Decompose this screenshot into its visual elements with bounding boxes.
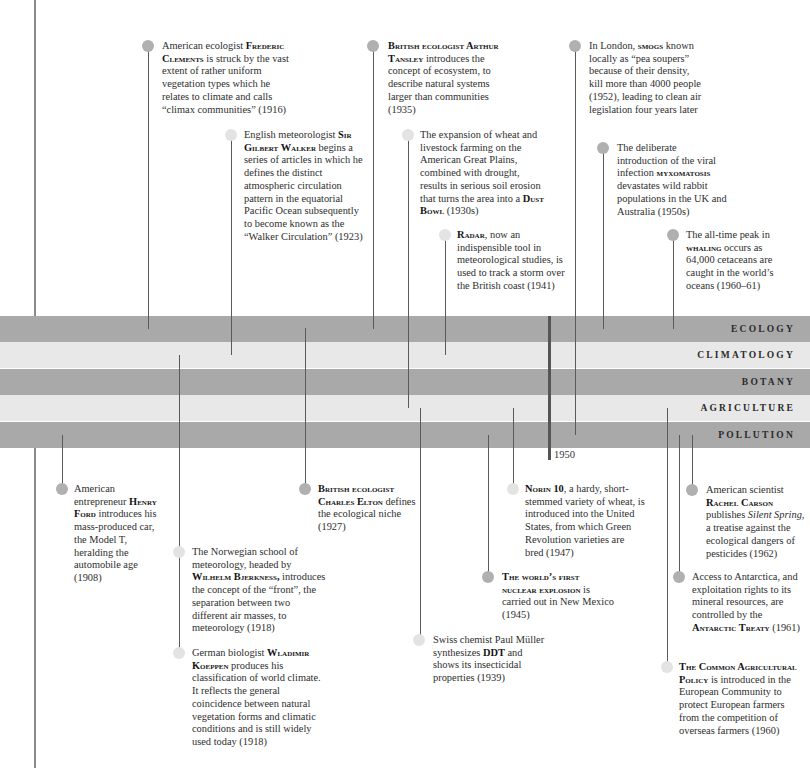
event-dot — [597, 142, 609, 154]
event-common-agricultural-policy: The Common Agricultural Policy is introd… — [679, 661, 797, 737]
event-dot — [661, 661, 673, 673]
year-label-1950: 1950 — [554, 449, 575, 460]
event-arthur-tansley: British ecologist Arthur Tansley introdu… — [388, 40, 512, 116]
connector-line — [575, 46, 576, 435]
band-climatology: CLIMATOLOGY — [0, 342, 810, 368]
event-dot — [173, 647, 185, 659]
connector-line — [305, 328, 306, 489]
band-botany: BOTANY — [0, 369, 810, 395]
event-dot — [56, 483, 68, 495]
event-dot — [507, 483, 519, 495]
timeline-page: ECOLOGY CLIMATOLOGY BOTANY AGRICULTURE P… — [0, 0, 810, 768]
event-dot — [299, 483, 311, 495]
event-dot — [402, 129, 414, 141]
band-label-ecology: ECOLOGY — [731, 316, 795, 342]
event-norin-10: Norin 10, a hardy, short-stemmed variety… — [525, 483, 645, 559]
connector-line — [603, 148, 604, 329]
event-wladimir-koeppen: German biologist Wladimir Koeppen produc… — [192, 647, 326, 749]
year-marker-1950 — [548, 316, 551, 460]
event-myxomatosis: The deliberate introduction of the viral… — [617, 142, 727, 218]
event-dot — [413, 634, 425, 646]
event-dot — [173, 546, 185, 558]
connector-line — [420, 408, 421, 640]
band-label-agriculture: AGRICULTURE — [700, 395, 795, 421]
left-axis-line-upper — [34, 0, 36, 316]
event-henry-ford: American entrepreneur Henry Ford introdu… — [74, 483, 160, 585]
connector-line — [679, 435, 680, 577]
event-dot — [569, 40, 581, 52]
event-antarctic-treaty: Access to Antarctica, and exploitation r… — [692, 571, 806, 635]
band-pollution: POLLUTION — [0, 422, 810, 448]
band-ecology: ECOLOGY — [0, 316, 810, 342]
event-dot — [142, 40, 154, 52]
band-label-climatology: CLIMATOLOGY — [697, 342, 795, 368]
event-first-nuclear-explosion: The world’s first nuclear explosion is c… — [502, 571, 616, 622]
connector-line — [148, 46, 149, 329]
connector-line — [373, 46, 374, 329]
connector-line — [488, 435, 489, 577]
event-dot — [686, 484, 698, 496]
event-dot — [673, 571, 685, 583]
event-london-smogs: In London, smogs known locally as “pea s… — [589, 40, 703, 116]
event-gilbert-walker: English meteorologist Sir Gilbert Walker… — [244, 129, 364, 243]
event-dot — [225, 129, 237, 141]
connector-line — [408, 135, 409, 408]
band-agriculture: AGRICULTURE — [0, 395, 810, 421]
event-charles-elton: British ecologist Charles Elton defines … — [318, 483, 418, 534]
connector-line — [513, 408, 514, 489]
band-label-pollution: POLLUTION — [718, 422, 795, 448]
event-whaling: The all-time peak in whaling occurs as 6… — [686, 229, 784, 293]
connector-line — [179, 355, 180, 653]
event-dust-bowl: The expansion of wheat and livestock far… — [420, 129, 546, 218]
event-radar: Radar, now an indispensible tool in mete… — [457, 229, 571, 293]
event-rachel-carson: American scientist Rachel Carson publish… — [706, 484, 808, 560]
event-wilhelm-bjerkness: The Norwegian school of meteorology, hea… — [192, 546, 326, 635]
connector-line — [445, 235, 446, 355]
event-frederic-clements: American ecologist Frederic Clements is … — [162, 40, 296, 116]
connector-line — [62, 435, 63, 489]
connector-line — [667, 408, 668, 667]
event-dot — [667, 229, 679, 241]
connector-line — [692, 435, 693, 490]
event-ddt: Swiss chemist Paul Müller synthesizes DD… — [433, 634, 549, 685]
event-dot — [482, 571, 494, 583]
left-axis-line-lower — [34, 448, 36, 768]
event-dot — [367, 40, 379, 52]
event-dot — [439, 229, 451, 241]
band-label-botany: BOTANY — [742, 369, 795, 395]
connector-line — [231, 135, 232, 355]
connector-line — [673, 235, 674, 329]
